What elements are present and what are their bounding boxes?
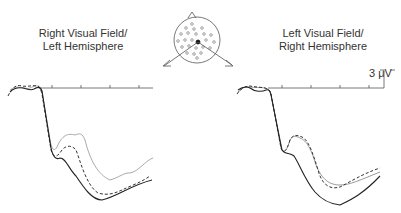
erp-figure <box>0 0 401 213</box>
right-gray-waveform <box>238 87 380 185</box>
right-axis <box>268 85 384 88</box>
left-solid-waveform <box>10 87 152 200</box>
left-axis <box>40 85 153 88</box>
right-dashed-waveform <box>237 86 380 188</box>
head-montage-icon <box>163 12 233 66</box>
left-dashed-waveform <box>8 85 150 194</box>
scale-bar <box>380 70 395 88</box>
right-solid-waveform <box>238 87 380 205</box>
